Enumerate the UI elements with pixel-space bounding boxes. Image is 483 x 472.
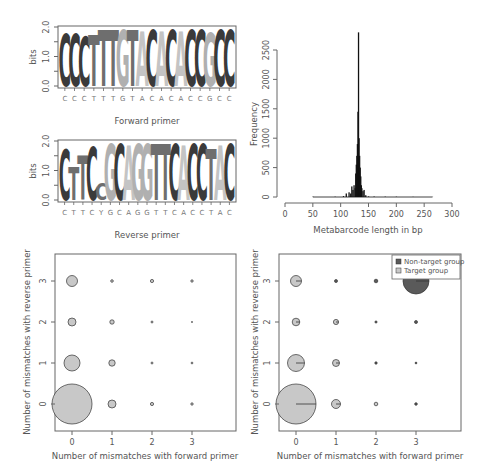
y-tick-label: 3 [39,278,48,283]
x-tick-label: 3 [413,438,418,447]
histogram-bar [351,186,352,197]
bubble [375,362,377,364]
bubble [375,321,377,323]
bubble [191,362,193,364]
bubble [191,280,193,282]
sequence-base: G [135,209,140,217]
legend-nontarget-label: Non-target group [404,258,465,266]
sequence-base: G [120,95,125,103]
bubble [68,318,76,326]
bubble-plot-target-vs-nontarget: 01230123 Number of mismatches with rever… [250,249,465,461]
sequence-base: T [110,95,116,103]
x-tick-label: 1 [333,438,338,447]
sequence-base: G [207,95,212,103]
sequence-base: C [62,209,67,217]
histogram-bar [368,196,369,197]
bubble [108,400,116,408]
sequence-base: C [188,95,193,103]
histogram-bar [352,190,353,197]
sequence-base: C [217,95,222,103]
sequence-base: C [227,95,232,103]
bubble-right-ylabel: Number of mismatches with reverse primer [250,249,260,435]
sequence-base: C [198,95,203,103]
histogram-bar [343,196,344,197]
sequence-base: C [172,209,177,217]
forward-logo-ylabel: bits [28,49,38,65]
x-tick-label: 1 [109,438,114,447]
sequence-base: T [153,209,159,217]
x-tick-label: 50 [308,210,318,219]
sequence-base: C [169,95,174,103]
histogram-bar [361,188,362,197]
reverse-logo-y-axis: 0.01.02.0 [42,135,58,207]
reverse-primer-logo: CTTCCGCAGGTTCACCTAC 0.01.02.0 bits CTTCY… [28,129,236,240]
sequence-base: G [144,209,149,217]
bubble [150,279,153,282]
x-tick-label: 150 [361,210,376,219]
sequence-base: C [117,209,122,217]
x-tick-label: 2 [149,438,154,447]
bubble [374,402,378,406]
histogram-bar [353,185,354,197]
y-tick-label: 2.0 [42,21,51,34]
bubble [335,280,338,283]
y-tick-label: 3 [263,278,272,283]
y-tick-label: 1.0 [42,164,51,177]
x-tick-label: 100 [333,210,348,219]
bubble [415,362,417,364]
sequence-base: T [71,209,77,217]
y-tick-label: 2 [263,319,272,324]
sequence-base: T [100,95,106,103]
sequence-base: C [227,209,232,217]
y-tick-label: 2000 [262,69,271,89]
sequence-base: A [140,95,145,103]
y-tick-label: 0.0 [42,80,51,93]
sequence-base: C [90,209,95,217]
forward-logo-y-axis: 0.01.02.0 [42,21,58,93]
y-tick-label: 500 [262,160,271,175]
legend-target-swatch [396,268,401,273]
bubble-left-ylabel: Number of mismatches with reverse primer [22,249,32,435]
y-tick-label: 0 [263,401,272,406]
y-tick-label: 1 [263,360,272,365]
sequence-base: A [159,95,164,103]
bubble-right-xlabel: Number of mismatches with forward primer [277,451,464,461]
histogram-bar [350,193,351,197]
y-tick-label: 1500 [262,99,271,119]
histogram-ylabel: Frequency [249,102,259,146]
sequence-base: A [218,209,223,217]
y-tick-label: 0.0 [42,194,51,207]
bubble [52,384,92,424]
bubble [415,403,418,406]
sequence-base: C [62,95,67,103]
sequence-base: T [208,209,214,217]
forward-primer-logo: CCCTTTGTACACACCGCC 0.01.02.0 bits CCCTTT… [28,14,236,126]
sequence-base: A [178,95,183,103]
y-tick-label: 1.0 [42,50,51,63]
sequence-base: T [91,95,97,103]
histogram-bar [362,191,363,197]
sequence-base: C [149,95,154,103]
sequence-base: A [181,209,186,217]
length-histogram: 05001000150020002500050100150200250300 F… [249,32,460,235]
y-tick-label: 2 [39,319,48,324]
sequence-base: A [126,209,131,217]
histogram-bar [365,195,366,197]
x-tick-label: 300 [444,210,459,219]
bubble-plot-all: 01230123 Number of mismatches with rever… [22,249,239,461]
sequence-base: C [190,209,195,217]
sequence-base: C [72,95,77,103]
bubble [191,403,193,405]
bubble [67,276,78,287]
legend-nontarget-swatch [396,259,401,264]
y-tick-label: 1 [39,360,48,365]
sequence-base: C [200,209,205,217]
x-tick-label: 0 [293,438,298,447]
y-tick-label: 1000 [262,128,271,148]
bubble [150,402,153,405]
histogram-bar [348,192,349,197]
sequence-base: T [162,209,168,217]
bubble [111,280,114,283]
x-tick-label: 0 [69,438,74,447]
figure-canvas: CCCTTTGTACACACCGCC 0.01.02.0 bits CCCTTT… [0,0,483,472]
